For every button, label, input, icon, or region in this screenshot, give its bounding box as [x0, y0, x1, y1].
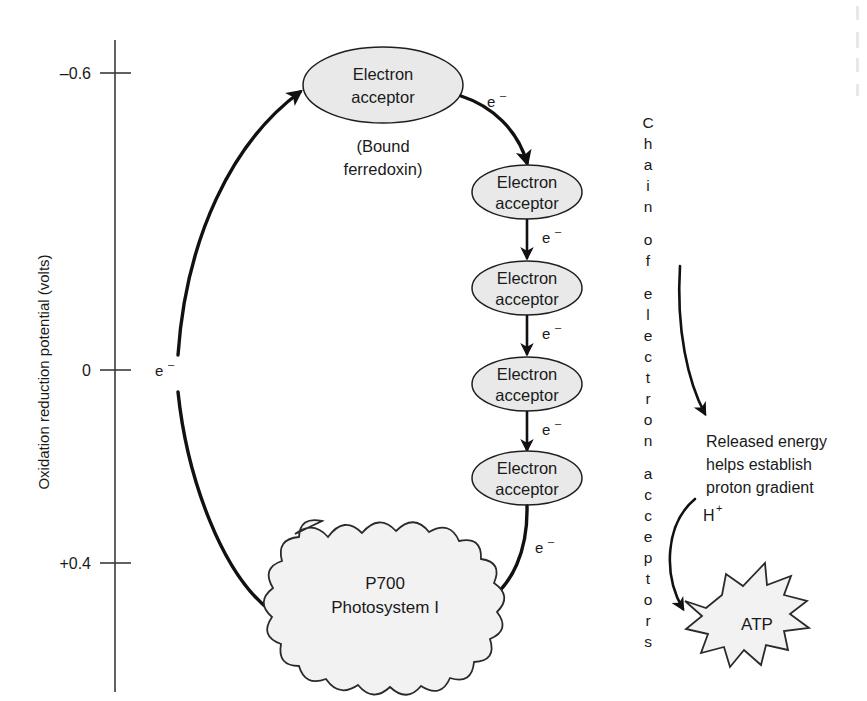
node-atp[interactable]: ATP [685, 563, 809, 667]
svg-text:o: o [644, 231, 653, 248]
svg-text:a: a [644, 156, 653, 173]
svg-text:C: C [642, 114, 653, 131]
svg-text:–: – [548, 535, 555, 547]
node-electron-acceptor-4-line2: acceptor [495, 480, 559, 498]
node-p700-photosystem-i[interactable]: P700 Photosystem I [264, 520, 505, 695]
arrow-proton-to-atp [670, 499, 695, 609]
svg-text:t: t [646, 369, 651, 386]
tick-label-zero: 0 [82, 362, 91, 379]
released-energy-line2: helps establish [706, 456, 812, 473]
svg-text:e: e [542, 325, 550, 342]
svg-text:e: e [487, 93, 495, 110]
svg-text:H: H [703, 507, 715, 524]
page-edge-artifact [856, 6, 859, 96]
tick-label-plus-0-4: +0.4 [59, 555, 91, 572]
svg-text:+: + [716, 502, 722, 514]
svg-text:o: o [644, 411, 653, 428]
svg-text:–: – [555, 321, 562, 333]
tick-label-minus-0-6: –0.6 [60, 65, 91, 82]
node-electron-acceptor-3[interactable]: Electron acceptor [472, 357, 582, 411]
p700-label-line2: Photosystem I [331, 598, 439, 617]
svg-text:l: l [646, 306, 649, 323]
node-electron-acceptor-3-line2: acceptor [495, 386, 559, 404]
svg-text:e: e [542, 421, 550, 438]
svg-text:r: r [645, 390, 650, 407]
node-electron-acceptor-3-line1: Electron [497, 365, 558, 383]
svg-text:e: e [535, 539, 543, 556]
svg-text:h: h [644, 135, 653, 152]
node-bound-ferredoxin-line1: Electron [353, 65, 414, 83]
photosystem-i-diagram: –0.6 0 +0.4 Oxidation reduction potentia… [0, 0, 867, 701]
bound-ferredoxin-sub-line2: ferredoxin) [344, 160, 423, 178]
p700-label-line1: P700 [365, 574, 405, 593]
node-electron-acceptor-1-line2: acceptor [495, 194, 559, 212]
svg-text:e: e [644, 528, 653, 545]
svg-text:e: e [644, 327, 653, 344]
y-axis [100, 40, 131, 692]
svg-text:c: c [644, 486, 652, 503]
svg-text:–: – [500, 89, 507, 101]
vertical-caption-chain-of-electron-acceptors: C h a i n o f e l e c t r o n a c c e p … [642, 114, 653, 650]
svg-text:t: t [646, 570, 651, 587]
node-electron-acceptor-2[interactable]: Electron acceptor [472, 261, 582, 315]
svg-text:a: a [644, 465, 653, 482]
electron-label-top-right: e – [487, 89, 507, 110]
svg-text:i: i [646, 177, 649, 194]
diagram-canvas: –0.6 0 +0.4 Oxidation reduction potentia… [0, 0, 867, 701]
node-electron-acceptor-4-line1: Electron [497, 459, 558, 477]
bound-ferredoxin-sub-line1: (Bound [356, 137, 409, 155]
svg-text:n: n [644, 198, 653, 215]
svg-text:f: f [646, 252, 651, 269]
node-bound-ferredoxin[interactable]: Electron acceptor [303, 47, 463, 123]
svg-text:c: c [644, 507, 652, 524]
node-electron-acceptor-2-line2: acceptor [495, 290, 559, 308]
svg-text:e: e [542, 229, 550, 246]
svg-text:p: p [644, 549, 653, 566]
svg-text:e: e [155, 362, 163, 379]
electron-label-chain-3: e – [542, 417, 562, 438]
electron-label-left: e – [155, 358, 175, 379]
node-electron-acceptor-1-line1: Electron [497, 173, 558, 191]
node-electron-acceptor-1[interactable]: Electron acceptor [472, 165, 582, 219]
released-energy-line1: Released energy [706, 433, 827, 450]
svg-text:n: n [644, 432, 653, 449]
atp-label: ATP [741, 615, 773, 634]
electron-label-chain-1: e – [542, 225, 562, 246]
cyclic-return-arrow [178, 92, 300, 612]
y-axis-title: Oxidation reduction potential (volts) [35, 254, 52, 489]
released-energy-line3: proton gradient [706, 479, 814, 496]
proton-label: H + [703, 502, 722, 524]
svg-text:–: – [555, 417, 562, 429]
svg-text:s: s [644, 633, 652, 650]
svg-text:e: e [644, 285, 653, 302]
svg-text:o: o [644, 591, 653, 608]
node-bound-ferredoxin-line2: acceptor [351, 88, 415, 106]
arrow-released-energy [679, 266, 705, 414]
svg-text:–: – [555, 225, 562, 237]
svg-text:r: r [645, 612, 650, 629]
node-electron-acceptor-2-line1: Electron [497, 269, 558, 287]
electron-label-chain-2: e – [542, 321, 562, 342]
svg-text:–: – [168, 358, 175, 370]
svg-text:c: c [644, 348, 652, 365]
node-electron-acceptor-4[interactable]: Electron acceptor [472, 451, 582, 505]
electron-label-bottom: e – [535, 535, 555, 556]
